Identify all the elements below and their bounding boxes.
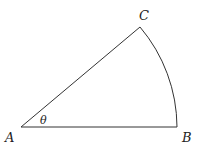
vertex-label-a: A bbox=[4, 130, 14, 145]
vertex-label-c: C bbox=[139, 8, 149, 23]
sector-figure: A B C θ bbox=[0, 0, 199, 149]
angle-label-theta: θ bbox=[40, 114, 47, 127]
sector-diagram: A B C θ bbox=[0, 0, 199, 149]
segment-ac bbox=[21, 27, 140, 127]
vertex-label-b: B bbox=[181, 130, 192, 145]
arc-cb bbox=[140, 27, 177, 127]
